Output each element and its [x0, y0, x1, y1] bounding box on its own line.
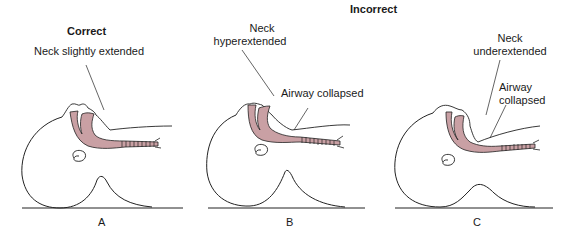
label-neck-slightly-extended: Neck slightly extended: [34, 45, 144, 58]
label-neck-c: Neck: [480, 32, 540, 45]
label-underextended: underextended: [466, 45, 554, 58]
panel-a-figure: [22, 65, 183, 208]
label-hyperextended: hyperextended: [205, 35, 295, 48]
heading-incorrect: Incorrect: [350, 3, 397, 16]
label-airway-c: Airway: [499, 81, 532, 94]
panel-b-figure: [207, 50, 365, 208]
panel-letter-b: B: [286, 216, 293, 228]
panel-letter-a: A: [98, 216, 105, 228]
panel-letter-c: C: [473, 216, 481, 228]
label-airway-collapsed-b: Airway collapsed: [281, 87, 364, 100]
heading-correct: Correct: [67, 25, 106, 38]
label-collapsed-c: collapsed: [499, 94, 545, 107]
label-neck-b: Neck: [230, 22, 294, 35]
